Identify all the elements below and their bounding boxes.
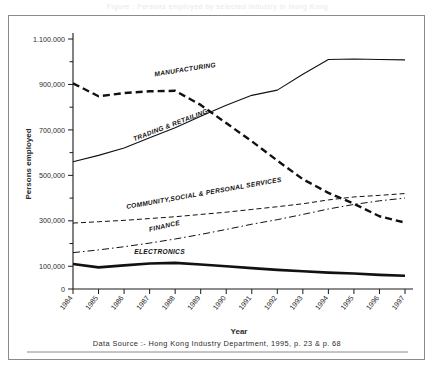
x-tick-label: 1997 (390, 294, 407, 312)
y-tick-label: 1.100.000 (33, 35, 65, 44)
series-label-trading-retailing: TRADING & RETAILING (132, 107, 208, 142)
y-axis-tick-labels: 0100,000300,000500,000700,000900,0001.10… (33, 35, 65, 294)
chart-plot-area: 0100,000300,000500,000700,000900,0001.10… (9, 16, 426, 361)
x-tick-label: 1993 (287, 294, 304, 312)
x-tick-label: 1996 (364, 294, 381, 312)
x-tick-label: 1991 (236, 294, 253, 312)
y-tick-label: 500,000 (39, 171, 65, 180)
chart-series-lines (73, 59, 405, 276)
series-line-electronics (73, 263, 405, 276)
x-tick-label: 1994 (313, 294, 330, 312)
x-tick-label: 1995 (339, 294, 356, 312)
y-axis-title: Persons employed (24, 128, 33, 199)
y-tick-label: 900,000 (39, 80, 65, 89)
series-line-trading-retailing (73, 59, 405, 162)
employment-line-chart: 0100,000300,000500,000700,000900,0001.10… (9, 16, 426, 361)
x-tick-label: 1989 (185, 294, 202, 312)
x-tick-label: 1988 (160, 294, 177, 312)
series-line-manufacturing (73, 83, 405, 222)
y-tick-label: 700,000 (39, 126, 65, 135)
x-tick-label: 1986 (109, 294, 126, 312)
x-tick-label: 1992 (262, 294, 279, 312)
y-tick-label: 300,000 (39, 216, 65, 225)
chart-axes (68, 33, 413, 294)
x-axis-title: Year (231, 327, 248, 336)
series-label-electronics: ELECTRONICS (134, 248, 185, 255)
y-tick-label: 100,000 (39, 262, 65, 271)
figure-caption: Figure : Persons employed by selected in… (0, 0, 435, 14)
series-line-community-social-personal-services (73, 194, 405, 224)
series-line-finance (73, 198, 405, 253)
y-tick-label: 0 (61, 285, 65, 294)
data-source-note: Data Source :- Hong Kong Industry Depart… (93, 339, 341, 348)
chart-series-labels: MANUFACTURINGTRADING & RETAILINGCOMMUNIT… (126, 61, 283, 256)
series-label-manufacturing: MANUFACTURING (154, 61, 216, 78)
x-axis-tick-labels: 1984198519861987198819891990199119921993… (58, 294, 407, 312)
series-label-community-social-personal-services: COMMUNITY,SOCIAL & PERSONAL SERVICES (126, 176, 283, 211)
x-tick-label: 1985 (83, 294, 100, 312)
x-tick-label: 1984 (58, 294, 75, 312)
x-tick-label: 1987 (134, 294, 151, 312)
x-tick-label: 1990 (211, 294, 228, 312)
series-label-finance: FINANCE (148, 219, 180, 233)
chart-frame: 0100,000300,000500,000700,000900,0001.10… (8, 15, 425, 360)
